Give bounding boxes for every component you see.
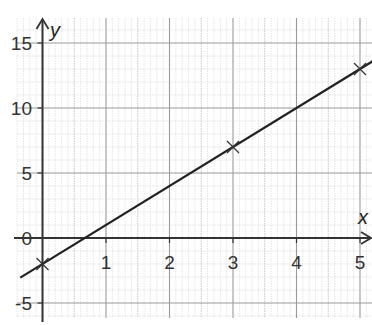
x-tick-label: 1 <box>101 252 112 273</box>
grid <box>17 18 372 318</box>
line-chart: 12345-5051015 x y <box>0 0 372 325</box>
y-tick-label: 15 <box>11 33 32 54</box>
x-tick-label: 3 <box>228 252 239 273</box>
y-tick-label: 10 <box>11 98 32 119</box>
x-axis-label: x <box>357 206 369 228</box>
data-line <box>20 61 372 277</box>
x-tick-label: 2 <box>164 252 175 273</box>
axes <box>14 19 371 322</box>
y-axis-label: y <box>48 19 61 41</box>
x-tick-label: 4 <box>291 252 302 273</box>
y-tick-label: -5 <box>15 293 32 314</box>
y-tick-label: 5 <box>21 163 32 184</box>
x-tick-label: 5 <box>355 252 366 273</box>
y-tick-label: 0 <box>21 228 32 249</box>
